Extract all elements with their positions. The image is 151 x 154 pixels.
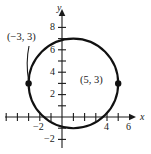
y-tick-label-2: 2 — [50, 89, 55, 99]
point-marker-left — [25, 80, 31, 86]
y-tick-label-6: 6 — [50, 45, 55, 55]
y-tick-label-8: 8 — [50, 22, 55, 32]
point-label-right: (5, 3) — [80, 75, 103, 86]
y-tick-label-4: 4 — [50, 67, 55, 77]
graph-figure: (−3, 3) (5, 3) x y −2 4 6 8 6 4 2 −2 — [0, 0, 151, 154]
x-axis — [5, 114, 136, 121]
x-tick-label--2: −2 — [33, 122, 44, 132]
x-tick-label-4: 4 — [104, 122, 109, 132]
point-marker-right — [115, 80, 121, 86]
point-label-left: (−3, 3) — [7, 32, 36, 43]
y-axis-label: y — [57, 3, 61, 13]
x-axis-arrowhead — [129, 114, 136, 121]
x-axis-label: x — [140, 112, 144, 122]
x-tick-label-6: 6 — [126, 122, 131, 132]
y-tick-label--2: −2 — [44, 134, 55, 144]
